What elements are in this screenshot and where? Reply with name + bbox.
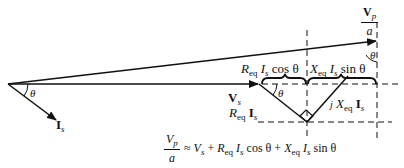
label-theta-drop: θ <box>278 88 283 99</box>
x-subscript: eq <box>318 68 327 78</box>
r-symbol: R <box>241 61 249 76</box>
label-req-is: Req Is <box>229 106 257 122</box>
equation-lhs-fraction: Vp a <box>164 133 180 164</box>
label-theta-tip: θ <box>370 50 375 61</box>
vp-symbol: V <box>363 5 372 19</box>
sin-func: sin θ <box>341 61 366 76</box>
i-subscript: s <box>361 103 365 113</box>
is-subscript: s <box>61 124 65 134</box>
x-subscript: eq <box>344 103 353 113</box>
x-symbol: X <box>310 61 318 76</box>
i-subscript: s <box>265 68 269 78</box>
term-r: R <box>217 141 224 155</box>
term-x-sub: eq <box>291 147 300 157</box>
term-r-sub: eq <box>225 147 234 157</box>
r-subscript: eq <box>237 112 246 122</box>
label-xeq-is-sin: Xeq Is sin θ <box>310 62 365 78</box>
term-cos: cos θ <box>247 141 272 155</box>
label-is: Is <box>56 118 65 134</box>
term-vs-sub: s <box>201 147 205 157</box>
approx-sign: ≈ <box>184 141 191 155</box>
term-i-sub: s <box>240 147 244 157</box>
label-req-is-cos: Req Is cos θ <box>241 62 299 78</box>
angle-arc-origin <box>24 84 28 96</box>
vp-subscript: p <box>372 11 377 21</box>
r-symbol: R <box>229 105 237 120</box>
vs-symbol: V <box>228 90 237 105</box>
term-sin: sin θ <box>313 141 336 155</box>
term-i-sub: s <box>307 147 311 157</box>
lhs-numerator-sub: p <box>173 138 178 148</box>
lhs-denominator: a <box>164 150 180 164</box>
angle-arc-drop <box>273 84 277 95</box>
r-subscript: eq <box>249 68 258 78</box>
i-subscript: s <box>334 68 338 78</box>
equation-rhs: ≈ Vs + Req Is cos θ + Xeq Is sin θ <box>184 142 336 157</box>
j-symbol: j <box>330 99 333 110</box>
cos-func: cos θ <box>272 61 299 76</box>
x-symbol: X <box>336 96 344 111</box>
vp-denominator: a <box>361 23 378 37</box>
i-subscript: s <box>254 112 258 122</box>
label-theta-origin: θ <box>30 88 35 99</box>
plus-sign: + <box>207 141 214 155</box>
label-vp-over-a: Vp a <box>361 6 378 37</box>
term-vs: V <box>194 141 201 155</box>
label-jxeq-is: j Xeq Is <box>330 97 364 113</box>
plus-sign: + <box>274 141 281 155</box>
